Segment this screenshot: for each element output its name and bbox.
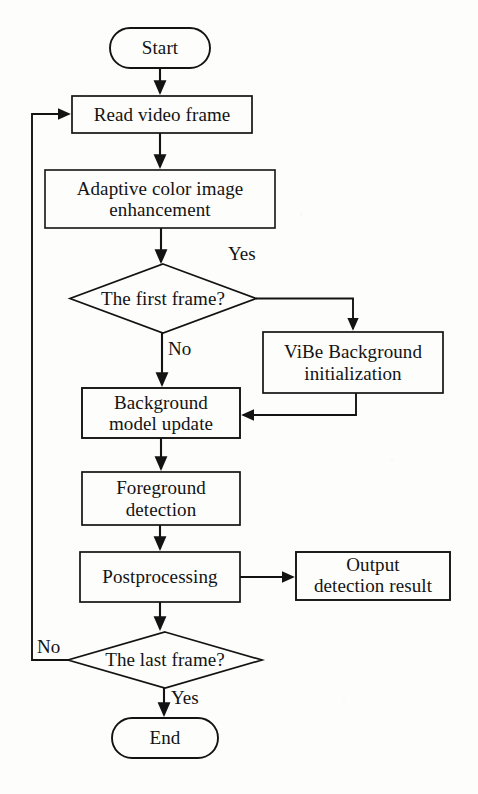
node-enhance-shape (45, 170, 275, 228)
flowchart-diagram (0, 0, 478, 794)
edge-label-last-frame-no: No (37, 636, 60, 658)
edge-label-first-frame-yes: Yes (228, 243, 256, 265)
node-last-decision-shape (68, 632, 262, 688)
edge-vibe-to-background-update (243, 393, 356, 415)
edge-first-frame-yes-to-vibe (256, 299, 353, 330)
figure-canvas: Start Read video frame Adaptive color im… (0, 0, 478, 794)
node-foreground-shape (82, 472, 240, 525)
node-postprocessing-shape (80, 552, 240, 602)
node-read-shape (72, 96, 252, 133)
edge-label-last-frame-yes: Yes (171, 687, 199, 709)
node-vibe-shape (263, 332, 443, 393)
node-end-shape (112, 718, 218, 758)
edge-label-first-frame-no: No (168, 338, 191, 360)
node-start-shape (110, 28, 210, 68)
node-background-update-shape (82, 388, 240, 438)
node-output-shape (296, 552, 450, 600)
edge-last-frame-no-to-read (32, 114, 69, 660)
node-first-decision-shape (70, 264, 256, 333)
